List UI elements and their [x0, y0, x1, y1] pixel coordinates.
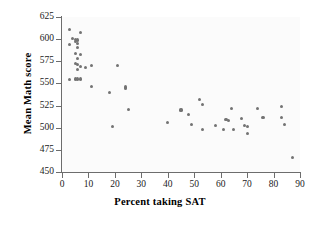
- y-tick-label: 575: [14, 56, 54, 66]
- x-tick-mark: [221, 173, 222, 178]
- data-point: [76, 42, 79, 45]
- data-point: [79, 53, 82, 56]
- data-point: [76, 68, 79, 71]
- data-point: [124, 87, 127, 90]
- data-point: [222, 128, 225, 131]
- x-tick-label: 30: [126, 180, 156, 190]
- data-point: [79, 77, 82, 80]
- x-axis-line: [61, 172, 301, 173]
- y-tick-label: 525: [14, 101, 54, 111]
- x-tick-mark: [115, 173, 116, 178]
- x-tick-mark: [300, 173, 301, 178]
- data-point: [198, 98, 201, 101]
- data-point: [232, 128, 235, 131]
- data-point: [127, 108, 130, 111]
- y-tick-mark: [56, 106, 61, 107]
- plot-area: [62, 17, 300, 172]
- data-point: [280, 105, 283, 108]
- y-tick-label: 550: [14, 78, 54, 88]
- data-point: [227, 119, 230, 122]
- data-point: [74, 52, 77, 55]
- x-axis-label: Percent taking SAT: [0, 196, 320, 207]
- data-point: [280, 116, 283, 119]
- x-tick-mark: [274, 173, 275, 178]
- y-tick-label: 600: [14, 34, 54, 44]
- data-point: [76, 57, 79, 60]
- x-tick-mark: [141, 173, 142, 178]
- data-point: [240, 117, 243, 120]
- data-point: [68, 43, 71, 46]
- y-tick-label: 475: [14, 145, 54, 155]
- data-point: [256, 107, 259, 110]
- data-point: [230, 107, 233, 110]
- data-point: [90, 64, 93, 67]
- y-tick-mark: [56, 128, 61, 129]
- data-point: [79, 31, 82, 34]
- y-tick-mark: [56, 83, 61, 84]
- y-tick-mark: [56, 39, 61, 40]
- y-tick-mark: [56, 172, 61, 173]
- data-point: [84, 66, 87, 69]
- data-point: [201, 103, 204, 106]
- data-point: [116, 64, 119, 67]
- y-axis-label: Mean Math score: [22, 24, 33, 164]
- x-tick-label: 10: [73, 180, 103, 190]
- data-point: [90, 85, 93, 88]
- y-tick-label: 500: [14, 123, 54, 133]
- data-point: [111, 125, 114, 128]
- data-point: [246, 125, 249, 128]
- data-point: [179, 108, 182, 111]
- data-point: [68, 28, 71, 31]
- y-tick-mark: [56, 17, 61, 18]
- x-tick-label: 70: [232, 180, 262, 190]
- data-point: [246, 132, 249, 135]
- scatter-plot-figure: 450475500525550575600625 010203040506070…: [0, 0, 320, 227]
- x-tick-label: 50: [179, 180, 209, 190]
- data-point: [291, 156, 294, 159]
- data-point: [76, 46, 79, 49]
- data-point: [190, 123, 193, 126]
- data-point: [68, 78, 71, 81]
- x-tick-mark: [194, 173, 195, 178]
- x-tick-mark: [88, 173, 89, 178]
- x-tick-mark: [247, 173, 248, 178]
- data-point: [201, 128, 204, 131]
- data-point: [79, 65, 82, 68]
- data-point: [166, 121, 169, 124]
- x-tick-label: 90: [285, 180, 315, 190]
- x-tick-mark: [168, 173, 169, 178]
- data-point: [187, 113, 190, 116]
- y-tick-mark: [56, 61, 61, 62]
- y-tick-label: 625: [14, 12, 54, 22]
- data-point: [283, 123, 286, 126]
- y-tick-label: 450: [14, 167, 54, 177]
- data-point: [108, 91, 111, 94]
- y-axis-line: [61, 16, 62, 173]
- y-tick-mark: [56, 150, 61, 151]
- x-tick-mark: [62, 173, 63, 178]
- data-point: [261, 116, 264, 119]
- data-point: [214, 124, 217, 127]
